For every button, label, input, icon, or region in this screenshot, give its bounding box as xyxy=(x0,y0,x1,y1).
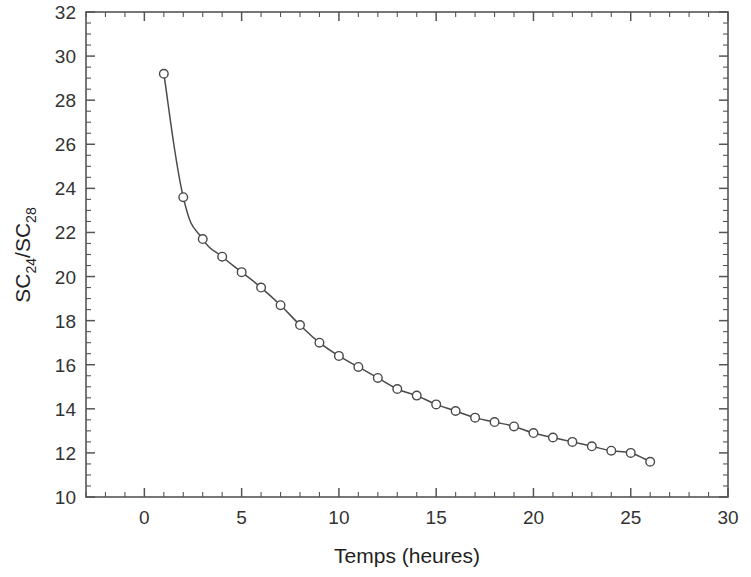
data-point-marker xyxy=(160,69,169,78)
data-point-marker xyxy=(490,418,499,427)
y-tick-label: 28 xyxy=(55,90,76,111)
data-point-marker xyxy=(374,374,383,383)
y-tick-label: 18 xyxy=(55,311,76,332)
data-point-marker xyxy=(451,407,460,416)
data-point-marker xyxy=(588,442,597,451)
y-axis-title-base2: SC xyxy=(11,223,34,252)
data-point-marker xyxy=(432,400,441,409)
data-point-marker xyxy=(471,413,480,422)
data-point-marker xyxy=(198,235,207,244)
data-point-marker xyxy=(529,429,538,438)
data-point-marker xyxy=(257,283,266,292)
data-point-marker xyxy=(393,385,402,394)
chart-canvas: 051015202530 101214161820222426283032 Te… xyxy=(0,0,751,577)
data-point-marker xyxy=(549,433,558,442)
x-tick-label: 20 xyxy=(523,507,544,528)
data-point-marker xyxy=(296,321,305,330)
y-tick-label: 12 xyxy=(55,443,76,464)
y-tick-label: 22 xyxy=(55,222,76,243)
y-axis-title-sub1: 24 xyxy=(23,258,39,274)
data-point-marker xyxy=(568,438,577,447)
data-point-marker xyxy=(276,301,285,310)
data-point-marker xyxy=(354,363,363,372)
data-point-marker xyxy=(179,193,188,202)
data-point-marker xyxy=(646,457,655,466)
x-tick-label: 0 xyxy=(139,507,150,528)
chart-background xyxy=(0,0,751,577)
data-point-marker xyxy=(607,446,616,455)
y-tick-label: 16 xyxy=(55,355,76,376)
data-point-marker xyxy=(237,268,246,277)
data-point-marker xyxy=(412,391,421,400)
y-tick-label: 20 xyxy=(55,267,76,288)
data-point-marker xyxy=(335,352,344,361)
x-axis-title: Temps (heures) xyxy=(334,544,480,567)
y-axis-title-sub2: 28 xyxy=(23,207,39,223)
x-tick-label: 15 xyxy=(426,507,447,528)
y-tick-label: 32 xyxy=(55,2,76,23)
x-tick-label: 10 xyxy=(328,507,349,528)
y-tick-label: 10 xyxy=(55,487,76,508)
y-tick-label: 14 xyxy=(55,399,77,420)
x-tick-label: 30 xyxy=(717,507,738,528)
data-point-marker xyxy=(315,338,324,347)
y-tick-label: 24 xyxy=(55,178,77,199)
y-tick-label: 26 xyxy=(55,134,76,155)
data-point-marker xyxy=(218,252,227,261)
data-point-marker xyxy=(510,422,519,431)
x-tick-label: 5 xyxy=(236,507,247,528)
x-tick-label: 25 xyxy=(620,507,641,528)
chart-figure: 051015202530 101214161820222426283032 Te… xyxy=(0,0,751,577)
data-point-marker xyxy=(626,449,635,458)
y-axis-title-base1: SC xyxy=(11,274,34,303)
y-tick-label: 30 xyxy=(55,46,76,67)
